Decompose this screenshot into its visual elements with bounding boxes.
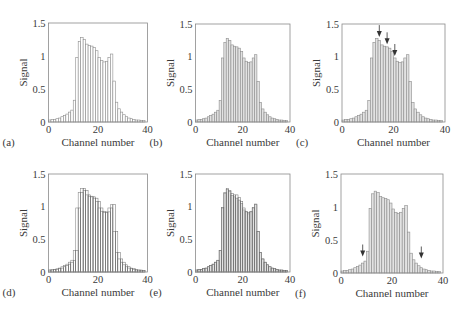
- bar: [382, 198, 385, 273]
- bar: [255, 205, 257, 272]
- bar: [238, 200, 240, 272]
- bar: [257, 231, 259, 272]
- y-axis-label: Signal: [164, 209, 176, 237]
- bar: [397, 214, 400, 273]
- y-tick-label: 1: [40, 201, 45, 212]
- bar: [401, 62, 404, 122]
- panel-label: (b): [150, 136, 163, 149]
- bar: [231, 196, 233, 272]
- y-tick-label: 0.5: [179, 234, 192, 245]
- x-tick-label: 0: [46, 274, 51, 285]
- bar: [273, 269, 275, 272]
- bar: [354, 268, 357, 273]
- y-axis-label: Signal: [310, 59, 322, 87]
- bar: [128, 118, 130, 122]
- bar: [226, 38, 228, 122]
- bar: [81, 38, 83, 122]
- panel-label: (c): [296, 136, 309, 149]
- bar: [405, 206, 408, 273]
- bar: [103, 62, 105, 122]
- figure-canvas: 0204000.511.5SignalChannel number(a)0204…: [0, 0, 468, 311]
- bar: [93, 47, 95, 122]
- y-tick-label: 1: [187, 201, 192, 212]
- y-tick-label: 0.5: [325, 235, 338, 246]
- bar: [406, 55, 409, 122]
- bar: [236, 198, 238, 272]
- bar: [214, 112, 216, 122]
- x-tick-label: 40: [142, 274, 153, 285]
- bar: [205, 268, 207, 272]
- y-tick-label: 1.5: [326, 19, 339, 30]
- bar: [352, 118, 355, 122]
- bar: [379, 196, 382, 273]
- bar: [212, 264, 214, 272]
- bar: [365, 110, 368, 122]
- bar: [264, 112, 266, 122]
- series-signal: [49, 38, 146, 122]
- bar: [375, 38, 378, 122]
- bar: [73, 250, 75, 272]
- bar: [412, 102, 415, 122]
- bar: [115, 102, 117, 122]
- bar: [78, 192, 80, 272]
- bar: [374, 191, 377, 273]
- bar: [123, 115, 125, 122]
- bar: [377, 192, 380, 273]
- bar: [207, 117, 209, 122]
- x-tick-label: 20: [93, 274, 104, 285]
- x-tick-label: 20: [93, 124, 104, 135]
- bar: [357, 115, 360, 122]
- bar: [56, 119, 58, 122]
- bar: [205, 118, 207, 122]
- x-tick-label: 0: [339, 124, 344, 135]
- bar: [392, 209, 395, 273]
- y-tick-label: 1.5: [179, 169, 192, 180]
- bar: [257, 81, 259, 122]
- series-signal: [342, 38, 442, 122]
- y-tick-label: 0.5: [32, 84, 45, 95]
- bar: [368, 100, 371, 122]
- bar: [91, 197, 93, 272]
- bar: [425, 270, 428, 273]
- y-tick-label: 1: [187, 51, 192, 62]
- bar: [417, 112, 420, 122]
- y-tick-label: 0: [40, 117, 45, 128]
- bar: [76, 57, 78, 122]
- bar: [210, 115, 212, 122]
- bar: [369, 208, 372, 273]
- y-tick-label: 1.5: [32, 18, 45, 29]
- bar: [128, 268, 130, 272]
- bar: [231, 45, 233, 122]
- y-tick-label: 0.5: [326, 84, 339, 95]
- bar: [409, 81, 412, 122]
- bar: [395, 212, 398, 273]
- series-signal: [49, 188, 146, 272]
- bar: [250, 62, 252, 122]
- bar: [378, 40, 381, 122]
- bar: [247, 63, 249, 122]
- bar: [226, 190, 228, 272]
- bar: [407, 232, 410, 273]
- bar: [113, 81, 115, 122]
- bar: [217, 260, 219, 272]
- bar: [383, 46, 386, 122]
- panel-label: (d): [3, 286, 16, 299]
- bar: [419, 115, 422, 122]
- panel-f: 0204000.511.5SignalChannel number(f): [295, 169, 448, 301]
- bar: [240, 51, 242, 122]
- panel-c: 0204000.511.5SignalChannel number(c): [296, 19, 450, 150]
- y-tick-label: 0.5: [179, 84, 192, 95]
- x-tick-label: 20: [238, 124, 249, 135]
- x-tick-label: 0: [193, 124, 198, 135]
- x-axis-label: Channel number: [206, 286, 279, 298]
- y-tick-label: 0: [187, 267, 192, 278]
- bar: [252, 58, 254, 122]
- bar: [63, 115, 65, 122]
- y-tick-label: 1.5: [32, 169, 45, 180]
- bar: [355, 117, 358, 122]
- bar: [219, 100, 221, 122]
- bar: [420, 268, 423, 273]
- bar: [105, 61, 107, 122]
- bar: [243, 58, 245, 122]
- y-axis-label: Signal: [17, 58, 29, 86]
